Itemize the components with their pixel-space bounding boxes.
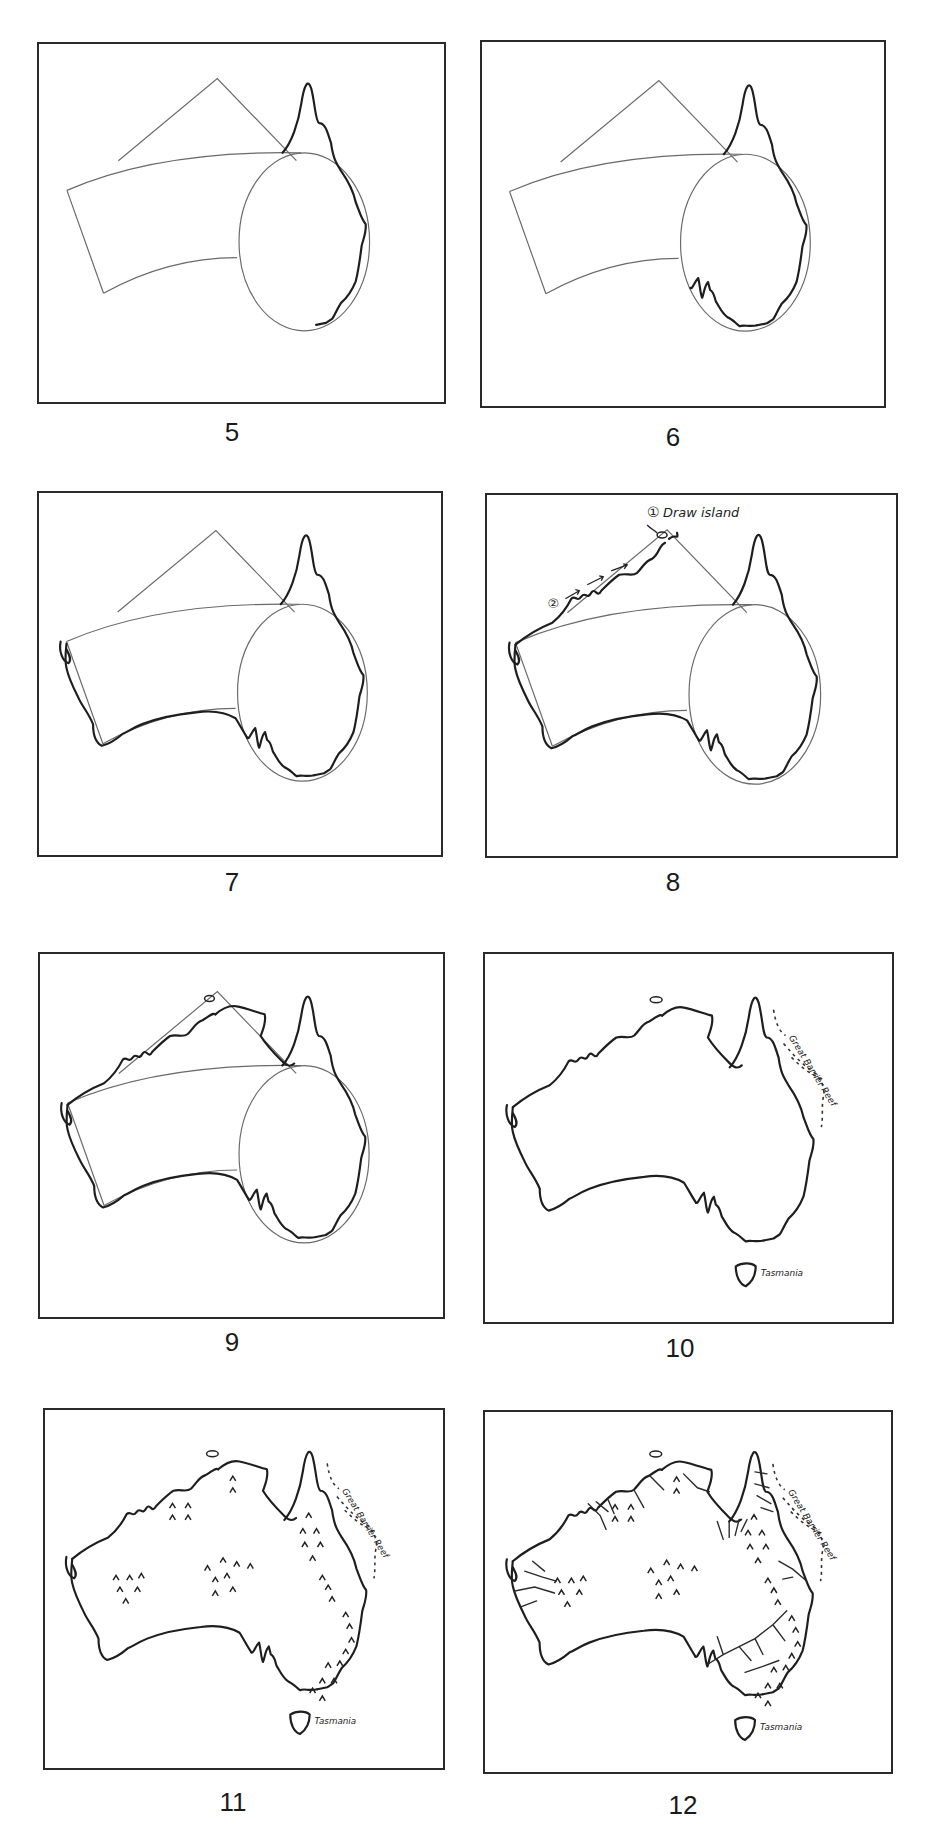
- island: [650, 997, 662, 1003]
- great-barrier-reef-label: Great Barrier Reef: [786, 1488, 839, 1564]
- panel-frame: [480, 40, 886, 408]
- panel-frame: Great Barrier Reef Tasmania: [43, 1408, 445, 1770]
- tasmania-label: Tasmania: [315, 1716, 357, 1726]
- panel-frame: [38, 952, 445, 1319]
- panel-frame: Great Barrier Reef Tasmania: [483, 1410, 893, 1774]
- arrow-icon: [587, 576, 603, 585]
- island: [650, 1451, 662, 1457]
- map-sketch: Great Barrier Reef Tasmania: [485, 1412, 891, 1772]
- step-number: 9: [225, 1329, 239, 1355]
- river-lines: [515, 1472, 807, 1673]
- step-number: 6: [666, 424, 680, 450]
- map-sketch: [40, 954, 443, 1317]
- reef-dashes: [327, 1463, 339, 1488]
- step-number: 11: [220, 1789, 247, 1815]
- mountain-symbols: [113, 1476, 354, 1701]
- annotation-step-two: ②: [547, 596, 559, 611]
- map-sketch: [482, 42, 884, 406]
- tasmania-label: Tasmania: [760, 1722, 802, 1732]
- step-number: 8: [666, 869, 680, 895]
- tasmania-outline: [735, 1717, 755, 1740]
- step-number: 5: [225, 419, 239, 445]
- annotation-step-one: ①: [647, 504, 660, 520]
- mountain-symbols: [554, 1477, 800, 1706]
- panel-frame: Great Barrier Reef Tasmania: [483, 952, 894, 1324]
- panel-frame: [37, 491, 443, 857]
- step-number: 12: [669, 1792, 698, 1818]
- great-barrier-reef-label: Great Barrier Reef: [340, 1486, 392, 1561]
- island: [207, 1451, 219, 1457]
- map-sketch: [39, 493, 441, 855]
- panel-frame: ① Draw island ②: [485, 493, 898, 858]
- map-sketch: ① Draw island ②: [487, 495, 896, 856]
- step-number: 10: [666, 1335, 695, 1361]
- arrow-icon: [647, 525, 657, 533]
- map-sketch: Great Barrier Reef Tasmania: [485, 954, 892, 1322]
- island-sketch: [657, 532, 667, 538]
- reef-dashes: [773, 1464, 785, 1490]
- reef-dashes: [774, 1010, 786, 1036]
- tasmania-label: Tasmania: [761, 1268, 803, 1278]
- annotation-draw-island: Draw island: [663, 505, 740, 520]
- map-sketch: Great Barrier Reef Tasmania: [45, 1410, 443, 1768]
- map-sketch: [39, 44, 444, 402]
- great-barrier-reef-label: Great Barrier Reef: [787, 1033, 840, 1109]
- tasmania-outline: [290, 1712, 309, 1734]
- step-number: 7: [225, 869, 239, 895]
- tasmania-outline: [736, 1263, 756, 1286]
- panel-frame: [37, 42, 446, 404]
